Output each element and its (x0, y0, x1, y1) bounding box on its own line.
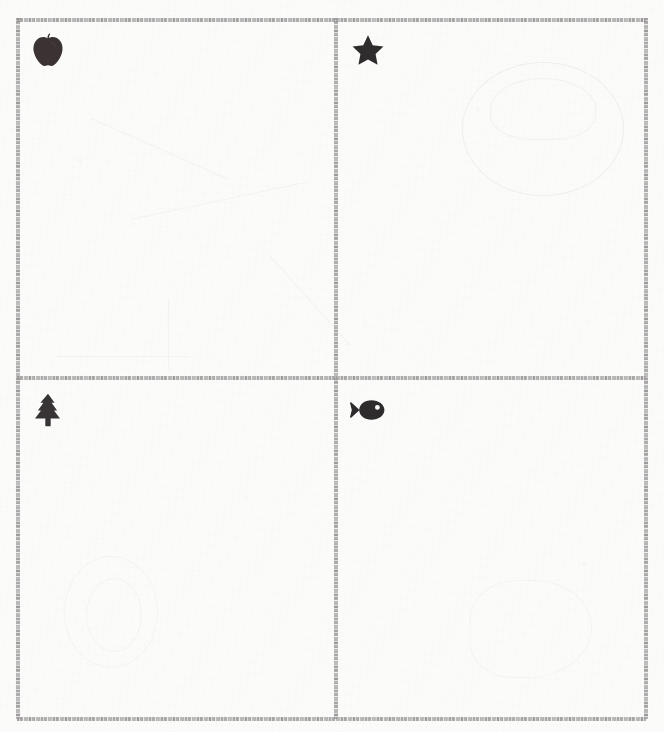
quadrant-bottom-left[interactable]: Pine Tree (18, 380, 334, 717)
quadrant-bottom-right[interactable]: Fish (338, 380, 644, 717)
apple-icon (28, 30, 68, 70)
grid-border-bottom (17, 717, 646, 721)
star-icon (348, 30, 388, 70)
quadrant-top-left[interactable]: Apple (18, 20, 334, 376)
quadrant-top-right[interactable]: Star (338, 20, 644, 376)
pine-tree-icon (28, 390, 68, 430)
paper-sheet: Apple Star Pine Tree Fish (0, 0, 664, 732)
fish-icon (348, 390, 388, 430)
grid-border-right (644, 18, 648, 719)
